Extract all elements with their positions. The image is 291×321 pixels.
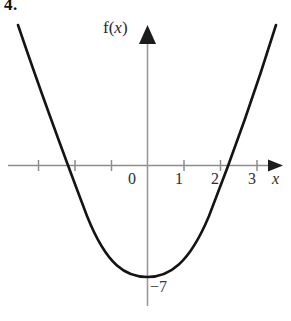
x-axis-label: x	[272, 170, 279, 188]
x-tick-label-0: 0	[128, 170, 136, 188]
x-tick-label-1: 1	[175, 170, 183, 188]
y-axis-arrow-icon	[139, 25, 156, 44]
parabola-plot	[0, 0, 291, 321]
vertex-value-label: −7	[150, 278, 167, 296]
figure-container: 4. f(x) x −7 0 1 2 3	[0, 0, 291, 321]
y-axis-label: f(x)	[103, 18, 128, 38]
x-tick-label-2: 2	[211, 170, 219, 188]
x-tick-label-3: 3	[248, 170, 256, 188]
